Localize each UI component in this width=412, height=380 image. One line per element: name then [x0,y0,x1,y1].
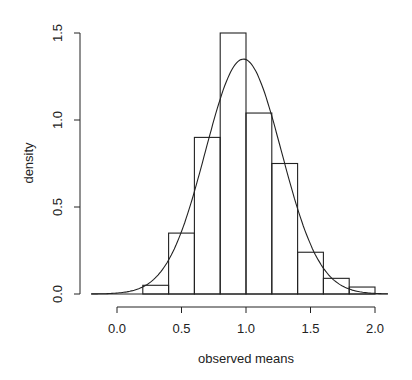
y-tick-label: 1.5 [50,24,65,42]
y-axis: 0.00.51.01.5 [50,24,80,303]
histogram-bar [298,252,324,294]
x-tick-label: 0.5 [172,321,190,336]
histogram-bar [143,285,169,294]
x-tick-label: 1.0 [237,321,255,336]
x-tick-label: 0.0 [108,321,126,336]
x-tick-label: 2.0 [366,321,384,336]
histogram-bar [272,164,298,295]
x-tick-label: 1.5 [301,321,319,336]
histogram-chart: 0.00.51.01.5 0.00.51.01.52.0 observed me… [0,0,412,380]
y-tick-label: 1.0 [50,111,65,129]
y-axis-label: density [21,142,36,184]
x-axis: 0.00.51.01.52.0 [108,307,384,336]
histogram-bar [194,137,220,294]
y-tick-label: 0.5 [50,198,65,216]
histogram-bar [246,113,272,294]
histogram-bar [220,33,246,294]
histogram-bars [91,33,388,294]
x-axis-label: observed means [198,351,295,366]
histogram-bar [169,233,195,294]
density-curve [91,59,388,294]
histogram-bar [323,278,349,294]
y-tick-label: 0.0 [50,285,65,303]
